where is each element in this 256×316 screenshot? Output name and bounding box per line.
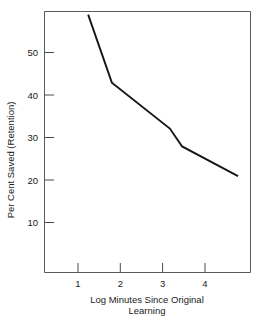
chart-container: 50 40 30 20 10 1 2 3 4 Per Cent Saved (R… [0,0,256,316]
y-axis-ticks [45,53,54,223]
y-axis-title: Per Cent Saved (Retention) [5,102,16,219]
x-tick-label-2: 2 [118,278,123,289]
y-tick-label-40: 40 [27,90,38,101]
y-tick-label-30: 30 [27,132,38,143]
x-tick-label-1: 1 [75,278,80,289]
x-axis-title-line1: Log Minutes Since Original [90,294,204,305]
retention-curve-line [88,15,238,177]
x-tick-label-3: 3 [160,278,165,289]
x-tick-label-4: 4 [202,278,207,289]
plot-frame [45,12,251,273]
y-tick-label-10: 10 [27,217,38,228]
forgetting-curve-chart: 50 40 30 20 10 1 2 3 4 Per Cent Saved (R… [0,0,256,316]
y-tick-label-50: 50 [27,47,38,58]
x-axis-tick-labels: 1 2 3 4 [75,278,207,289]
x-axis-title-line2: Learning [129,305,166,316]
y-axis-tick-labels: 50 40 30 20 10 [27,47,38,228]
frame-rect [45,12,251,273]
y-tick-label-20: 20 [27,175,38,186]
x-axis-ticks [78,263,205,272]
